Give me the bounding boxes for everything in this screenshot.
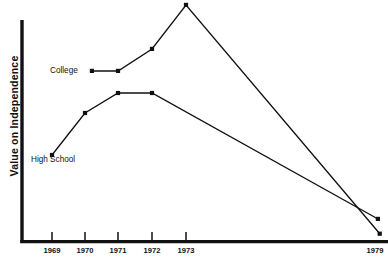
series-line-high-school bbox=[52, 93, 378, 219]
axis-lines bbox=[20, 20, 388, 243]
data-point-college-1972 bbox=[150, 47, 154, 51]
data-point-high-school-1971 bbox=[116, 91, 120, 95]
y-axis-label: Value on Independence bbox=[8, 36, 20, 196]
data-point-college-1971 bbox=[116, 69, 120, 73]
data-point-high-school-1970 bbox=[83, 111, 87, 115]
x-tick-label-1971: 1971 bbox=[103, 246, 133, 255]
series-label-college: College bbox=[50, 66, 78, 75]
chart-plot-area bbox=[0, 0, 388, 265]
data-point-college-1973 bbox=[184, 3, 188, 7]
data-point-college-1979 bbox=[378, 232, 382, 236]
x-tick-label-1979: 1979 bbox=[362, 246, 388, 255]
x-axis-ticks bbox=[52, 232, 186, 240]
series-markers-high-school bbox=[50, 91, 380, 221]
x-tick-label-1970: 1970 bbox=[70, 246, 100, 255]
series-label-high-school: High School bbox=[31, 155, 75, 164]
line-chart-figure: Value on Independence bbox=[0, 0, 388, 265]
series-line-college bbox=[92, 5, 380, 234]
data-point-high-school-1972 bbox=[150, 91, 154, 95]
data-point-high-school-1979 bbox=[376, 217, 380, 221]
x-tick-label-1969: 1969 bbox=[37, 246, 67, 255]
series-markers-college bbox=[90, 3, 382, 236]
data-point-college-1969 bbox=[90, 69, 94, 73]
x-tick-label-1972: 1972 bbox=[137, 246, 167, 255]
x-tick-label-1973: 1973 bbox=[171, 246, 201, 255]
